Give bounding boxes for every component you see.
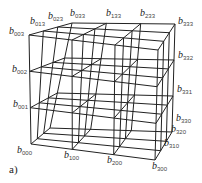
lattice-edge — [53, 62, 168, 69]
control-point-label-b100: b100 — [64, 150, 79, 161]
figure-caption: a) — [9, 163, 18, 175]
lattice-edge — [41, 67, 162, 78]
control-point-label-b330: b330 — [176, 113, 191, 124]
lattice-edge — [50, 128, 172, 132]
lattice-edge — [158, 24, 175, 50]
control-point-label-b200: b200 — [107, 155, 122, 166]
lattice-edge — [131, 24, 140, 131]
lattice-edge — [30, 71, 157, 86]
lattice-edge — [31, 128, 50, 144]
lattice-edge — [172, 24, 175, 132]
control-point-label-b003: b003 — [9, 26, 24, 37]
lattice-edge — [156, 96, 173, 123]
lattice-edge — [72, 59, 101, 77]
lattice-edge — [48, 98, 167, 105]
control-point-label-b001: b001 — [13, 99, 28, 110]
lattice-edge — [114, 95, 134, 118]
lattice-edge — [30, 93, 57, 108]
lattice-edge — [44, 27, 58, 133]
lattice-edge — [72, 23, 106, 40]
lattice-edge — [39, 103, 161, 114]
lattice-edge — [166, 33, 169, 142]
control-point-label-b233: b233 — [140, 8, 155, 19]
lattice-edge — [157, 60, 174, 87]
control-point-label-b332: b332 — [178, 50, 193, 61]
control-point-label-b013: b013 — [30, 16, 45, 27]
lattice-edge — [44, 133, 167, 141]
lattice-edge — [31, 144, 155, 160]
control-point-label-b023: b023 — [48, 11, 63, 22]
lattice-edge — [72, 129, 90, 149]
control-point-label-b000: b000 — [17, 145, 32, 156]
control-point-label-b331: b331 — [177, 84, 192, 95]
control-point-label-b033: b033 — [70, 8, 85, 19]
lattice-edge — [85, 29, 95, 136]
bezier-control-lattice-diagram: b003b013b023b033b133b233b333b002b332b001… — [0, 0, 202, 183]
lattice-edge — [115, 59, 138, 81]
lattice-edge — [78, 34, 83, 142]
lattice-edge — [37, 31, 43, 139]
lattice-edge — [72, 94, 96, 113]
lattice-edge — [115, 24, 141, 45]
lattice-edge — [72, 23, 175, 24]
control-point-label-b002: b002 — [12, 64, 27, 75]
lattice-edge — [37, 139, 160, 151]
control-point-label-b300: b300 — [152, 161, 167, 172]
lattice-edge — [30, 58, 65, 71]
control-point-label-b320: b320 — [171, 124, 186, 135]
lattice-edge — [57, 93, 173, 96]
control-point-label-b310: b310 — [164, 138, 179, 149]
control-point-label-b133: b133 — [106, 8, 121, 19]
lattice-edge — [58, 27, 170, 33]
lattice-edge — [114, 131, 132, 155]
control-point-label-b333: b333 — [178, 16, 193, 27]
lattice-edge — [91, 23, 107, 129]
lattice-edge — [29, 35, 31, 144]
